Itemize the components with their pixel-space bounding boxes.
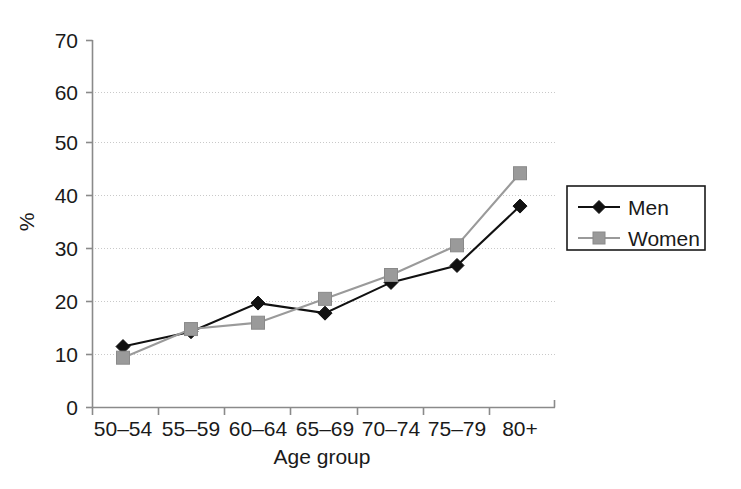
- y-tick-label-40: 40: [55, 184, 78, 207]
- y-tick-labels: 0 10 20 30 40 50 60 70: [55, 29, 78, 419]
- x-tick-marks: [93, 408, 490, 416]
- y-tick-marks: [86, 93, 93, 408]
- legend-label-women: Women: [628, 227, 700, 250]
- chart-legend: Men Women: [567, 186, 705, 250]
- data-point-women-70–74: [385, 269, 398, 282]
- data-point-women-55–59: [185, 323, 198, 336]
- x-tick-label-55-59: 55–59: [162, 417, 220, 440]
- x-tick-label-60-64: 60–64: [229, 417, 288, 440]
- data-point-women-50–54: [117, 351, 130, 364]
- series-line-men: [123, 206, 520, 346]
- x-tick-label-75-79: 75–79: [428, 417, 486, 440]
- data-point-women-75–79: [451, 239, 464, 252]
- series-layer: [116, 167, 527, 364]
- y-tick-label-60: 60: [55, 81, 78, 104]
- x-tick-label-65-69: 65–69: [296, 417, 354, 440]
- y-tick-label-50: 50: [55, 131, 78, 154]
- data-point-women-65–69: [319, 292, 332, 305]
- line-chart: 0 10 20 30 40 50 60 70 % 50–54 55–59 60–…: [0, 0, 741, 489]
- y-tick-label-20: 20: [55, 290, 78, 313]
- x-tick-label-80-plus: 80+: [502, 417, 538, 440]
- data-point-men-60–64: [251, 296, 265, 310]
- axes: [86, 40, 555, 408]
- x-tick-label-50-54: 50–54: [94, 417, 153, 440]
- x-tick-labels: 50–54 55–59 60–64 65–69 70–74 75–79 80+: [94, 417, 538, 440]
- data-point-men-65–69: [318, 306, 332, 320]
- data-point-women-60–64: [252, 316, 265, 329]
- x-axis-title: Age group: [274, 445, 371, 468]
- y-tick-label-10: 10: [55, 343, 78, 366]
- y-axis-title: %: [15, 213, 38, 232]
- y-tick-label-30: 30: [55, 237, 78, 260]
- x-tick-label-70-74: 70–74: [362, 417, 421, 440]
- series-women: [117, 167, 527, 364]
- legend-label-men: Men: [628, 196, 669, 219]
- y-tick-label-70: 70: [55, 29, 78, 52]
- chart-figure: 0 10 20 30 40 50 60 70 % 50–54 55–59 60–…: [0, 0, 741, 489]
- data-point-women-80+: [514, 167, 527, 180]
- y-tick-label-0: 0: [66, 396, 78, 419]
- legend-women-marker-square-icon: [593, 232, 605, 244]
- series-men: [116, 199, 527, 353]
